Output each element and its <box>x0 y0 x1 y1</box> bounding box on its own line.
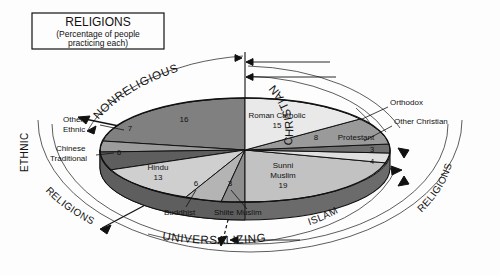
label-protestant: Protestant <box>338 133 375 142</box>
callout-other-ethnic-line1: Other <box>63 115 83 124</box>
pie-3d <box>100 98 390 220</box>
pie-chart-svg: 16 Roman Catholic 15 8 Protestant 3 4 Su… <box>0 0 500 276</box>
title-box: RELIGIONS (Percentage of people practici… <box>32 13 164 49</box>
arc-label-ethnic: ETHNIC <box>19 132 30 172</box>
callout-buddhist: Buddhist <box>164 208 196 217</box>
title-heading: RELIGIONS <box>65 15 130 29</box>
callout-chinese-traditional-line1: Chinese <box>56 144 86 153</box>
callout-other-ethnic-line2: Ethnic <box>63 125 85 134</box>
label-roman-catholic-value: 15 <box>273 121 282 130</box>
label-other-christian-value: 4 <box>370 157 374 166</box>
label-roman-catholic: Roman Catholic <box>249 111 306 120</box>
callout-orthodox: Orthodox <box>390 98 423 107</box>
label-nonreligious-value: 16 <box>180 115 189 124</box>
label-protestant-value: 8 <box>314 133 319 142</box>
label-other-ethnic-value: 7 <box>128 124 133 133</box>
callout-chinese-traditional-line2: Traditional <box>50 154 87 163</box>
title-subtitle-line2: practicing each) <box>68 38 128 48</box>
label-hindu: Hindu <box>148 163 169 172</box>
figure-religions-pie-chart: 16 Roman Catholic 15 8 Protestant 3 4 Su… <box>0 0 500 276</box>
label-chinese-traditional-value: 6 <box>117 148 122 157</box>
label-hindu-value: 13 <box>154 173 163 182</box>
label-muslim: Muslim <box>270 171 296 180</box>
label-orthodox-value: 3 <box>370 145 374 154</box>
label-shiite-value: 3 <box>228 179 233 188</box>
callout-shiite-muslim: Shiite Muslim <box>214 208 262 217</box>
label-sunni-muslim-value: 19 <box>279 181 288 190</box>
label-sunni: Sunni <box>273 161 294 170</box>
callout-other-christian: Other Christian <box>394 117 448 126</box>
label-buddhist-value: 6 <box>194 179 199 188</box>
